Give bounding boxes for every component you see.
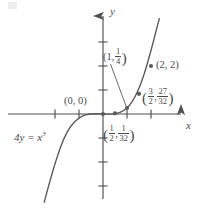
fraction-denominator: 32 — [157, 96, 168, 106]
cubic-graph-figure: y x (0, 0) (2, 2) (1,14) (32,2732) (12,1… — [0, 0, 206, 214]
point-half — [113, 111, 117, 115]
y-axis-label: y — [110, 6, 115, 17]
fraction-denominator: 32 — [118, 133, 129, 143]
fraction-numerator: 1 — [115, 47, 121, 56]
fraction-one-thirtysecond: 132 — [118, 124, 129, 142]
fraction-twentyseven-thirtyseconds: 2732 — [157, 87, 168, 105]
cubic-curve — [44, 19, 159, 203]
fraction-numerator: 1 — [118, 124, 129, 133]
fraction-numerator: 3 — [148, 87, 154, 96]
equation-exponent: 3 — [42, 130, 46, 138]
point-three-halves — [137, 92, 141, 96]
label-point-two: (2, 2) — [156, 60, 179, 71]
label-three-halves-open: ( — [142, 90, 147, 106]
label-three-halves-close: ) — [168, 90, 173, 106]
label-point-one-close: ) — [122, 50, 127, 66]
equation-base: 4y = x — [14, 131, 42, 143]
label-half-open: ( — [103, 127, 108, 143]
label-point-half: (12,132) — [103, 124, 134, 143]
fraction-three-halves: 32 — [148, 87, 154, 105]
leader-line-point-one — [111, 64, 127, 107]
fraction-denominator: 2 — [148, 96, 154, 106]
label-origin: (0, 0) — [64, 96, 87, 107]
fraction-numerator: 27 — [157, 87, 168, 96]
point-two — [149, 64, 153, 68]
x-axis-label: x — [186, 120, 191, 131]
label-point-one: (1,14) — [103, 47, 127, 66]
fraction-one-half: 12 — [109, 124, 115, 142]
label-point-one-open: (1, — [103, 51, 114, 62]
fraction-denominator: 2 — [109, 133, 115, 143]
label-half-close: ) — [129, 127, 134, 143]
fraction-denominator: 4 — [115, 56, 121, 66]
point-one — [125, 106, 129, 110]
fraction-one-quarter: 14 — [115, 47, 121, 65]
equation-label: 4y = x3 — [14, 131, 46, 143]
point-origin — [101, 112, 105, 116]
y-axis — [99, 16, 108, 199]
graph-canvas — [0, 0, 206, 214]
label-point-three-halves: (32,2732) — [142, 87, 173, 106]
fraction-numerator: 1 — [109, 124, 115, 133]
